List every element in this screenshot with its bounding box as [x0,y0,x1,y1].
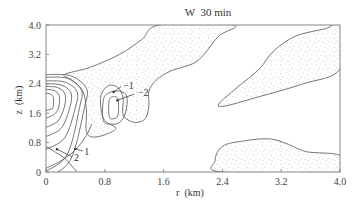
contour-positive-3 [45,86,66,128]
y-tick-label: 3.2 [29,49,42,60]
arrow-head [116,99,118,101]
contour-positive-4 [45,84,72,137]
x-tick-label: 4.0 [334,176,347,187]
y-tick-label: 4.0 [29,20,42,31]
lower-right-downdraft-region [211,139,350,174]
contour-label: −2 [138,87,149,98]
x-tick-label: 0.8 [99,176,112,187]
arrow-head [74,148,76,150]
x-tick-label: 3.2 [275,176,288,187]
contour-label: 2 [74,152,79,163]
y-tick-label: 2.4 [29,78,42,89]
y-tick-label: 1.6 [29,108,42,119]
arrow-head [112,91,114,93]
contour-chart: W 30 min 00.81.62.43.24.0 00.81.62.43.24… [0,0,361,211]
x-axis-label: r (km) [176,187,204,199]
arrow-head [56,148,58,150]
plot-area [45,22,351,179]
x-tick-label: 0 [44,176,49,187]
x-tick-label: 2.4 [216,176,229,187]
y-tick-label: 0 [36,167,41,178]
contour-label: 1 [84,146,89,157]
x-tick-label: 1.6 [157,176,170,187]
contour-label: −1 [123,80,134,91]
upper-right-downdraft-region [218,22,343,106]
y-tick-label: 0.8 [29,137,42,148]
y-axis-label: z (km) [13,86,25,115]
chart-title: W 30 min [185,6,232,18]
central-downdraft-region [64,23,236,137]
